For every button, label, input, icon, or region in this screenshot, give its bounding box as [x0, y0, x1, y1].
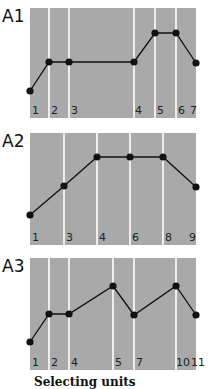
- level-point: [65, 58, 72, 65]
- level-point: [26, 211, 33, 218]
- unit-label: 4: [71, 356, 78, 369]
- unit-label: 2: [51, 104, 58, 117]
- level-point: [26, 338, 33, 345]
- level-point: [151, 29, 158, 36]
- unit-label: 3: [71, 104, 78, 117]
- unit-label: 10: [176, 356, 190, 369]
- unit-label: 7: [136, 356, 143, 369]
- unit-label: 5: [157, 104, 164, 117]
- level-point: [65, 310, 72, 317]
- level-point: [130, 311, 137, 318]
- unit-label: 3: [66, 231, 73, 244]
- panel-a2: A2134689: [2, 131, 200, 245]
- level-point: [26, 87, 33, 94]
- unit-label: 7: [190, 104, 197, 117]
- unit-label: 9: [189, 231, 196, 244]
- figure-caption: Selecting units: [34, 375, 136, 389]
- level-point: [45, 58, 52, 65]
- panel-background: [30, 133, 196, 245]
- level-point: [192, 311, 199, 318]
- level-point: [109, 282, 116, 289]
- unit-label: 6: [132, 231, 139, 244]
- level-point: [172, 282, 179, 289]
- unit-label: 4: [99, 231, 106, 244]
- unit-label: 2: [51, 356, 58, 369]
- unit-label: 11: [191, 356, 205, 369]
- level-point: [159, 153, 166, 160]
- panel-title: A2: [2, 131, 24, 151]
- level-point: [192, 183, 199, 190]
- level-point: [192, 59, 199, 66]
- unit-label: 5: [115, 356, 122, 369]
- unit-label: 1: [32, 231, 39, 244]
- panel-title: A1: [2, 6, 24, 26]
- panel-title: A3: [2, 256, 24, 276]
- unit-label: 6: [178, 104, 185, 117]
- unit-label: 4: [135, 104, 142, 117]
- unit-label: 1: [32, 356, 39, 369]
- level-point: [45, 310, 52, 317]
- level-point: [130, 58, 137, 65]
- unit-label: 8: [165, 231, 172, 244]
- panel-background: [30, 8, 196, 118]
- level-point: [126, 153, 133, 160]
- level-point: [93, 153, 100, 160]
- level-point: [172, 29, 179, 36]
- panel-a1: A11234567: [2, 6, 200, 118]
- level-point: [60, 182, 67, 189]
- panel-a3: A3124571011: [2, 256, 205, 370]
- unit-label: 1: [32, 104, 39, 117]
